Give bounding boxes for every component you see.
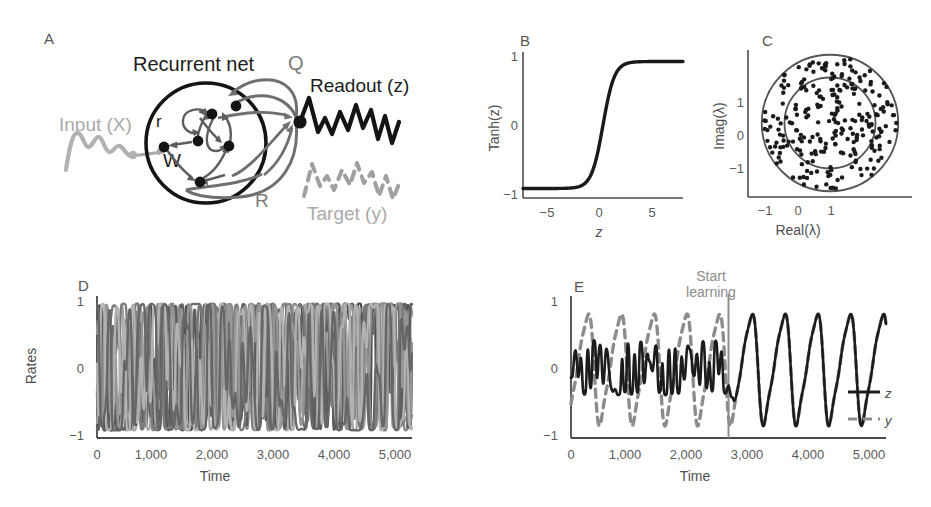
eigenvalue-point — [816, 105, 820, 109]
eigenvalue-point — [768, 145, 772, 149]
eigenvalue-point — [877, 134, 881, 138]
eigenvalue-point — [809, 171, 813, 175]
eigenvalue-point — [781, 101, 785, 105]
eigenvalue-point — [877, 93, 881, 97]
eigenvalue-point — [839, 104, 843, 108]
net-node-1 — [193, 136, 204, 147]
eigenvalue-point — [795, 113, 799, 117]
eigenvalue-point — [818, 137, 822, 141]
eigenvalue-point — [827, 119, 831, 123]
eigenvalue-point — [771, 114, 775, 118]
eigenvalue-point — [848, 126, 852, 130]
w-arrowhead-4 — [168, 142, 178, 149]
input-dot — [129, 151, 137, 159]
eigenvalue-point — [848, 153, 852, 157]
w-conn-10 — [200, 118, 219, 140]
eigenvalue-point — [811, 69, 815, 73]
eigenvalue-point — [874, 112, 878, 116]
eigenvalue-point — [802, 182, 806, 186]
eigenvalue-point — [851, 132, 855, 136]
eigenvalue-point — [779, 83, 783, 87]
node-to-readout-1 — [218, 112, 289, 118]
eigenvalue-point — [852, 140, 856, 144]
eigenvalue-point — [870, 143, 874, 147]
eigenvalue-point — [840, 126, 844, 130]
eigenvalue-point — [811, 84, 815, 88]
eigenvalue-point — [850, 82, 854, 86]
eigenvalue-point — [798, 176, 802, 180]
panel-b: B Tanh(z) 1 0 −1 −5 0 5 z — [470, 0, 705, 258]
eigenvalue-point — [892, 113, 896, 117]
readout-waveform — [300, 98, 399, 143]
eigenvalue-point — [799, 152, 803, 156]
eigenvalue-point — [835, 108, 839, 112]
eigenvalue-point — [810, 135, 814, 139]
net-node-4 — [224, 141, 235, 152]
eigenvalue-point — [894, 121, 898, 125]
eigenvalue-point — [872, 103, 876, 107]
eigenvalue-point — [835, 83, 839, 87]
panel-a-diagram — [0, 0, 470, 258]
eigenvalue-point — [815, 169, 819, 173]
eigenvalue-point — [843, 118, 847, 122]
eigenvalue-point — [882, 81, 886, 85]
eigenvalue-point — [831, 88, 835, 92]
eigenvalue-point — [773, 144, 777, 148]
eigenvalue-point — [791, 139, 795, 143]
eigenvalue-point — [853, 87, 857, 91]
figure-canvas: A Recurrent net Q Readout (z) Input (X) … — [0, 0, 931, 507]
eigenvalue-point — [785, 143, 789, 147]
eigenvalue-point — [835, 178, 839, 182]
eigenvalue-point — [782, 72, 786, 76]
eigenvalue-point — [842, 62, 846, 66]
target-waveform — [304, 163, 399, 199]
eigenvalue-point — [840, 175, 844, 179]
eigenvalue-point — [800, 162, 804, 166]
eigenvalue-point — [867, 122, 871, 126]
eigenvalue-point — [871, 129, 875, 133]
eigenvalue-point — [806, 160, 810, 164]
eigenvalue-point — [845, 137, 849, 141]
net-node-2 — [207, 109, 218, 120]
eigenvalue-point — [877, 127, 881, 131]
eigenvalue-point — [778, 145, 782, 149]
eigenvalue-point — [834, 129, 838, 133]
panel-d-plot — [0, 258, 470, 507]
eigenvalue-point — [840, 72, 844, 76]
eigenvalue-point — [859, 173, 863, 177]
eigenvalue-point — [768, 124, 772, 128]
w-conn-6 — [203, 148, 227, 178]
eigenvalue-point — [887, 140, 891, 144]
eigenvalue-point — [852, 92, 856, 96]
eigenvalue-point — [805, 169, 809, 173]
eigenvalue-point — [868, 69, 872, 73]
eigenvalue-point — [811, 159, 815, 163]
eigenvalue-point — [776, 127, 780, 131]
eigenvalue-point — [762, 118, 766, 122]
eigenvalue-point — [868, 158, 872, 162]
eigenvalue-point — [778, 132, 782, 136]
eigenvalue-point — [830, 111, 834, 115]
eigenvalue-point — [842, 58, 846, 62]
eigenvalue-point — [802, 135, 806, 139]
eigenvalue-point — [889, 103, 893, 107]
eigenvalue-point — [876, 159, 880, 163]
eigenvalue-point — [863, 88, 867, 92]
eigenvalue-point — [778, 151, 782, 155]
eigenvalue-point — [835, 95, 839, 99]
eigenvalue-point — [870, 89, 874, 93]
eigenvalue-point — [835, 99, 839, 103]
eigenvalue-point — [782, 78, 786, 82]
eigenvalue-point — [781, 138, 785, 142]
eigenvalue-point — [881, 105, 885, 109]
eigenvalue-point — [847, 76, 851, 80]
eigenvalue-point — [799, 86, 803, 90]
eigenvalue-point — [869, 173, 873, 177]
eigenvalue-point — [839, 150, 843, 154]
panel-e-plot — [470, 258, 931, 507]
eigenvalue-point — [826, 174, 830, 178]
eigenvalue-point — [830, 136, 834, 140]
eigenvalue-point — [804, 67, 808, 71]
readout-arrowhead-1 — [284, 113, 293, 120]
eigenvalue-point — [804, 108, 808, 112]
